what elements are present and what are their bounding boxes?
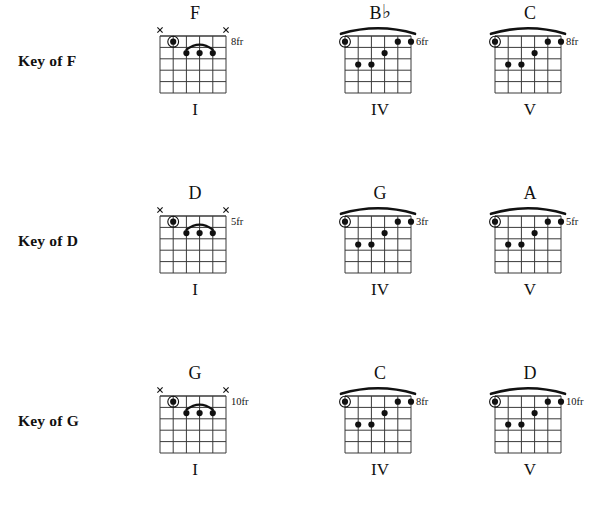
key-row: Key of GG10frIC8frIVD10frV bbox=[0, 360, 606, 510]
chord-diagram-cell: G3frIV bbox=[305, 180, 455, 350]
finger-dot bbox=[408, 399, 414, 405]
fretboard-grid bbox=[331, 22, 431, 100]
fretboard-grid bbox=[146, 202, 246, 280]
fretboard-diagram: 5fr bbox=[481, 202, 581, 280]
finger-dot bbox=[558, 39, 564, 45]
finger-dot bbox=[408, 219, 414, 225]
chord-name: D bbox=[455, 362, 605, 384]
key-row: Key of DD5frIG3frIVA5frV bbox=[0, 180, 606, 350]
finger-dot bbox=[382, 230, 388, 236]
fret-position-label: 8fr bbox=[566, 36, 578, 47]
chord-roman-numeral: IV bbox=[305, 460, 455, 480]
chord-name: G bbox=[120, 362, 270, 384]
full-barre-arc bbox=[341, 28, 415, 34]
flat-sign-icon: ♭ bbox=[382, 1, 391, 22]
fretboard-grid bbox=[331, 202, 431, 280]
fret-position-label: 5fr bbox=[231, 216, 243, 227]
chord-name: G bbox=[305, 182, 455, 204]
fretboard-grid bbox=[481, 22, 581, 100]
fretboard-diagram: 8fr bbox=[146, 22, 246, 100]
finger-dot bbox=[505, 61, 511, 67]
chord-diagram-cell: G10frI bbox=[120, 360, 270, 510]
muted-string-x-icon bbox=[157, 27, 162, 32]
fret-position-label: 8fr bbox=[416, 396, 428, 407]
chord-name: C bbox=[455, 2, 605, 24]
finger-dot bbox=[368, 241, 374, 247]
fret-position-label: 10fr bbox=[566, 396, 584, 407]
finger-dot bbox=[395, 399, 401, 405]
finger-dot bbox=[382, 410, 388, 416]
fret-position-label: 3fr bbox=[416, 216, 428, 227]
full-barre-arc bbox=[341, 388, 415, 394]
finger-dot bbox=[382, 50, 388, 56]
fretboard-grid bbox=[146, 382, 246, 460]
chord-diagram-cell: D10frV bbox=[455, 360, 605, 510]
chord-name: B♭ bbox=[305, 2, 455, 24]
fretboard-diagram: 10fr bbox=[146, 382, 246, 460]
chord-diagram-cell: D5frI bbox=[120, 180, 270, 350]
chord-roman-numeral: I bbox=[120, 280, 270, 300]
finger-dot bbox=[183, 410, 189, 416]
chord-name: F bbox=[120, 2, 270, 24]
finger-dot bbox=[183, 230, 189, 236]
muted-string-x-icon bbox=[157, 387, 162, 392]
finger-dot bbox=[395, 39, 401, 45]
chord-diagram-cell: C8frIV bbox=[305, 360, 455, 510]
finger-dot bbox=[210, 410, 216, 416]
muted-string-x-icon bbox=[223, 387, 228, 392]
finger-dot bbox=[558, 399, 564, 405]
fret-position-label: 6fr bbox=[416, 36, 428, 47]
finger-dot bbox=[368, 421, 374, 427]
fret-position-label: 10fr bbox=[231, 396, 249, 407]
fretboard-grid bbox=[481, 382, 581, 460]
finger-dot bbox=[558, 219, 564, 225]
finger-dot bbox=[532, 410, 538, 416]
finger-dot bbox=[197, 410, 203, 416]
chord-chart: Key of FF8frIB♭6frIVC8frVKey of DD5frIG3… bbox=[0, 0, 606, 510]
finger-dot bbox=[210, 50, 216, 56]
finger-dot bbox=[368, 61, 374, 67]
fretboard-grid bbox=[146, 22, 246, 100]
full-barre-arc bbox=[341, 208, 415, 214]
fretboard-grid bbox=[331, 382, 431, 460]
full-barre-arc bbox=[491, 208, 565, 214]
finger-dot bbox=[518, 241, 524, 247]
chord-name-letter: B bbox=[369, 3, 381, 23]
finger-dot bbox=[518, 421, 524, 427]
full-barre-arc bbox=[491, 28, 565, 34]
fretboard-diagram: 3fr bbox=[331, 202, 431, 280]
chord-roman-numeral: V bbox=[455, 100, 605, 120]
muted-string-x-icon bbox=[157, 207, 162, 212]
fretboard-diagram: 10fr bbox=[481, 382, 581, 460]
chord-name: C bbox=[305, 362, 455, 384]
chord-diagram-cell: A5frV bbox=[455, 180, 605, 350]
chord-roman-numeral: IV bbox=[305, 280, 455, 300]
chord-name-letter: G bbox=[189, 363, 202, 383]
fretboard-diagram: 5fr bbox=[146, 202, 246, 280]
finger-dot bbox=[355, 241, 361, 247]
fret-position-label: 8fr bbox=[231, 36, 243, 47]
finger-dot bbox=[518, 61, 524, 67]
fret-position-label: 5fr bbox=[566, 216, 578, 227]
muted-string-x-icon bbox=[223, 207, 228, 212]
finger-dot bbox=[183, 50, 189, 56]
chord-roman-numeral: I bbox=[120, 100, 270, 120]
chord-name-letter: A bbox=[524, 183, 537, 203]
chord-name-letter: D bbox=[524, 363, 537, 383]
chord-diagram-cell: B♭6frIV bbox=[305, 0, 455, 170]
fretboard-diagram: 8fr bbox=[481, 22, 581, 100]
chord-name-letter: C bbox=[524, 3, 536, 23]
finger-dot bbox=[545, 219, 551, 225]
chord-diagram-cell: C8frV bbox=[455, 0, 605, 170]
finger-dot bbox=[210, 230, 216, 236]
chord-name-letter: D bbox=[189, 183, 202, 203]
fretboard-grid bbox=[481, 202, 581, 280]
finger-dot bbox=[545, 399, 551, 405]
finger-dot bbox=[505, 241, 511, 247]
finger-dot bbox=[395, 219, 401, 225]
chord-roman-numeral: I bbox=[120, 460, 270, 480]
finger-dot bbox=[355, 61, 361, 67]
chord-diagram-cell: F8frI bbox=[120, 0, 270, 170]
chord-name-letter: G bbox=[374, 183, 387, 203]
finger-dot bbox=[197, 50, 203, 56]
